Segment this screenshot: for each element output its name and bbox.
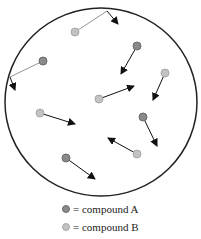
velocity-arrow-icon — [108, 138, 137, 154]
compound-b-swatch-icon — [62, 223, 70, 231]
legend-item-compound-a: = compound A — [62, 203, 201, 215]
compound-a-particle — [62, 154, 70, 162]
collision-trail-line — [10, 61, 43, 77]
legend-label-compound-b: = compound B — [73, 221, 138, 233]
compound-a-particle — [133, 42, 141, 50]
compound-b-particle — [95, 95, 103, 103]
compound-b-particle — [133, 150, 141, 158]
velocity-arrow-icon — [121, 46, 137, 74]
compound-b-particle — [71, 28, 79, 36]
compound-a-particle — [139, 113, 147, 121]
compound-a-swatch-icon — [62, 205, 70, 213]
particle-container-diagram — [0, 0, 201, 200]
velocity-arrow-icon — [40, 113, 75, 124]
collision-trail-line — [75, 11, 107, 32]
velocity-arrow-icon — [10, 77, 15, 90]
velocity-arrow-icon — [66, 158, 95, 179]
legend-label-compound-a: = compound A — [73, 203, 138, 215]
velocity-arrow-icon — [143, 117, 157, 146]
legend-item-compound-b: = compound B — [62, 221, 201, 233]
particles-group — [10, 11, 169, 179]
compound-b-particle — [161, 69, 169, 77]
compound-a-particle — [39, 57, 47, 65]
compound-b-particle — [36, 109, 44, 117]
velocity-arrow-icon — [107, 11, 118, 24]
velocity-arrow-icon — [99, 86, 134, 99]
